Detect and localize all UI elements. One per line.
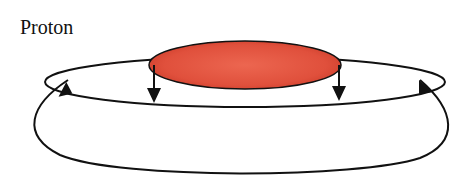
proton-disc xyxy=(149,41,341,89)
up-arrow-right-icon xyxy=(419,80,433,94)
outer-field-loop xyxy=(34,80,448,173)
proton-field-diagram xyxy=(0,0,471,181)
